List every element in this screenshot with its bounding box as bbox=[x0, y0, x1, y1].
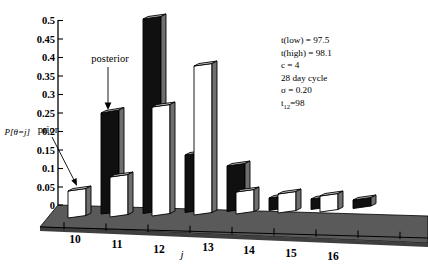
note-suffix: =98 bbox=[290, 98, 305, 108]
parameters-note-block: t(low) = 97.5 t(high) = 98.1 c = 4 28 da… bbox=[281, 35, 332, 110]
y-tick-label: 0.5 bbox=[42, 15, 55, 26]
note-line: σ = 0.20 bbox=[281, 85, 312, 95]
x-tick-label: 15 bbox=[285, 247, 297, 259]
y-tick-label: 0.4 bbox=[42, 52, 56, 63]
y-tick-label: 0.1 bbox=[42, 163, 55, 174]
y-tick-label: 0.45 bbox=[37, 34, 55, 45]
bar-group-16 bbox=[320, 191, 376, 212]
posterior-callout: posterior bbox=[91, 53, 129, 110]
bar-chart-figure: 0.5 0.45 0.4 0.35 0.3 0.25 0.2 0.15 0.1 … bbox=[0, 0, 428, 273]
y-axis-title: P[θ=j] bbox=[4, 127, 31, 137]
y-tick-label: 0.35 bbox=[37, 71, 55, 82]
y-tick-labels: 0.5 0.45 0.4 0.35 0.3 0.25 0.2 0.15 0.1 … bbox=[37, 15, 56, 211]
x-tick-label: 11 bbox=[112, 238, 123, 250]
x-tick-label: 13 bbox=[202, 241, 214, 253]
prior-bar-10 bbox=[68, 186, 91, 218]
x-tick-label: 16 bbox=[327, 250, 339, 262]
y-tick-label: 0.3 bbox=[42, 89, 55, 100]
prior-callout-label: prior bbox=[38, 124, 59, 135]
note-line: t(low) = 97.5 bbox=[281, 35, 330, 45]
x-axis-title: j bbox=[178, 248, 183, 260]
posterior-callout-label: posterior bbox=[91, 53, 129, 64]
y-tick-label: 0.25 bbox=[37, 108, 55, 119]
prior-bar-12 bbox=[152, 102, 175, 216]
x-tick-label: 10 bbox=[69, 233, 81, 245]
note-line: 28 day cycle bbox=[281, 73, 327, 83]
prior-bar-15 bbox=[278, 189, 301, 213]
note-line: c = 4 bbox=[281, 60, 300, 70]
y-tick-label: 0.05 bbox=[37, 182, 55, 193]
prior-bar-13 bbox=[194, 61, 217, 215]
prior-bar-11 bbox=[110, 172, 133, 217]
y-tick-label: 0 bbox=[50, 200, 55, 211]
posterior-bar-16 bbox=[353, 195, 376, 209]
note-line-subscripted: t12=98 bbox=[281, 98, 305, 110]
x-tick-label: 12 bbox=[153, 243, 165, 255]
chart-svg: 0.5 0.45 0.4 0.35 0.3 0.25 0.2 0.15 0.1 … bbox=[0, 0, 428, 273]
note-subscript: 12 bbox=[284, 103, 291, 110]
x-tick-label: 14 bbox=[243, 244, 255, 256]
y-axis bbox=[58, 20, 63, 205]
prior-bar-16 bbox=[320, 191, 343, 212]
y-tick-label: 0.15 bbox=[37, 145, 55, 156]
chart-floor bbox=[40, 205, 428, 247]
prior-bar-14 bbox=[236, 187, 259, 214]
note-line: t(high) = 98.1 bbox=[281, 48, 332, 58]
